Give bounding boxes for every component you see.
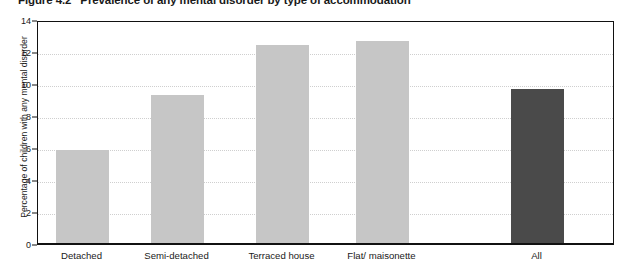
plot-area: [37, 21, 614, 245]
y-axis-tick-label: 14: [21, 16, 31, 26]
bar: [256, 45, 309, 243]
x-axis-labels: DetachedSemi-detachedTerraced houseFlat/…: [37, 250, 614, 270]
bar: [151, 95, 204, 243]
x-axis-tick-label: Semi-detached: [144, 250, 209, 261]
y-axis-tick-label: 10: [21, 80, 31, 90]
y-axis-tick-label: 12: [21, 48, 31, 58]
y-axis-tick-label: 6: [26, 144, 31, 154]
y-axis-tick-label: 2: [26, 208, 31, 218]
y-axis-ticks: 02468101214: [0, 21, 37, 245]
x-axis-tick-label: Detached: [61, 250, 102, 261]
figure-title-line: Figure 4.2Prevalence of any mental disor…: [18, 0, 411, 7]
y-axis-tick-label: 0: [26, 240, 31, 250]
x-axis-tick-label: Terraced house: [248, 250, 314, 261]
figure-title-text: Prevalence of any mental disorder by typ…: [80, 0, 410, 6]
y-axis-tick-label: 8: [26, 112, 31, 122]
bar: [511, 89, 564, 243]
bar: [356, 41, 409, 243]
x-axis-tick-label: All: [531, 250, 542, 261]
figure-container: Figure 4.2Prevalence of any mental disor…: [0, 0, 623, 277]
figure-title: Figure 4.2Prevalence of any mental disor…: [18, 0, 411, 7]
figure-title-number: Figure 4.2: [18, 0, 71, 6]
x-axis-tick-label: Flat/ maisonette: [347, 250, 415, 261]
y-axis-tick-label: 4: [26, 176, 31, 186]
bar: [56, 150, 109, 243]
bar-series: [38, 22, 613, 243]
